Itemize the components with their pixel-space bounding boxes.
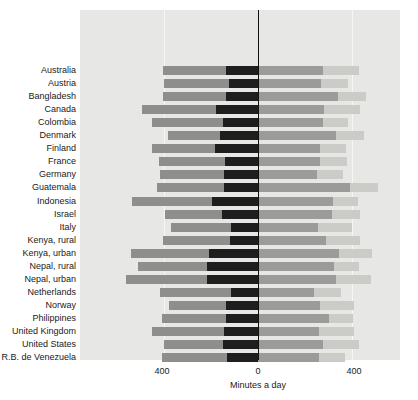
category-label: Norway	[0, 301, 76, 310]
category-label: Philippines	[0, 314, 76, 323]
xtick-left-400: 400	[142, 366, 182, 376]
category-label: Kenya, urban	[0, 249, 76, 258]
category-label: Germany	[0, 170, 76, 179]
x-axis-title: Minutes a day	[158, 380, 358, 390]
category-label: Nepal, rural	[0, 262, 76, 271]
category-label: Bangladesh	[0, 92, 76, 101]
category-label: Kenya, rural	[0, 236, 76, 245]
category-label: United Kingdom	[0, 327, 76, 336]
chart-root: Women Men Nonmarketactivity Marketactivi…	[0, 0, 418, 400]
category-label: Indonesia	[0, 197, 76, 206]
category-label: R.B. de Venezuela	[0, 353, 76, 362]
category-label: Israel	[0, 210, 76, 219]
category-label: Finland	[0, 144, 76, 153]
xtick-right-400: 400	[334, 366, 374, 376]
category-label: Colombia	[0, 118, 76, 127]
category-label: Guatemala	[0, 183, 76, 192]
category-axis-labels: AustraliaAustriaBangladeshCanadaColombia…	[0, 10, 418, 360]
category-label: United States	[0, 340, 76, 349]
category-label: Canada	[0, 105, 76, 114]
category-label: Italy	[0, 223, 76, 232]
category-label: Netherlands	[0, 288, 76, 297]
category-label: Austria	[0, 79, 76, 88]
category-label: France	[0, 157, 76, 166]
category-label: Australia	[0, 66, 76, 75]
category-label: Denmark	[0, 131, 76, 140]
xtick-zero: 0	[238, 366, 278, 376]
category-label: Nepal, urban	[0, 275, 76, 284]
